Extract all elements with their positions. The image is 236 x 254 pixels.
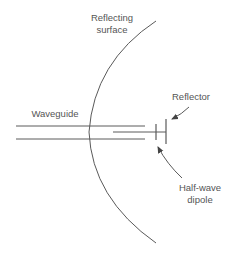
reflecting-surface-label-line1: Reflecting — [91, 12, 133, 23]
reflector-label: Reflector — [172, 91, 210, 102]
half-wave-dipole-label-line1: Half-wave — [179, 182, 221, 193]
reflector-arrow — [172, 107, 189, 119]
half-wave-dipole-label-line2: dipole — [187, 194, 212, 205]
dipole-arrow — [158, 147, 182, 178]
waveguide-label: Waveguide — [31, 108, 78, 119]
antenna-diagram: Reflecting surface Waveguide Reflector H… — [0, 0, 236, 254]
reflecting-surface-label-line2: surface — [96, 24, 127, 35]
